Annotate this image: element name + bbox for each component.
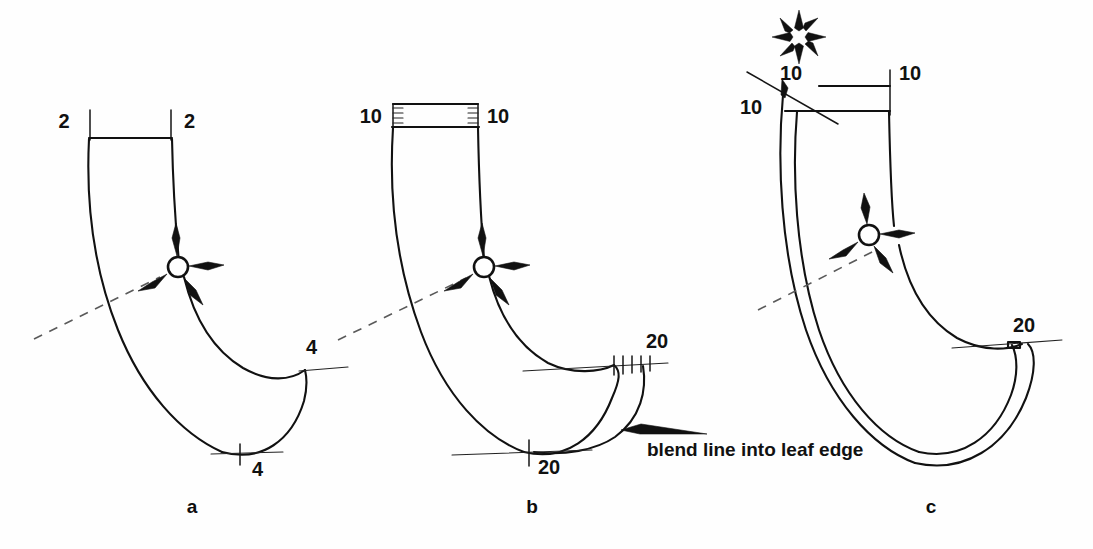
panel-b-section-dash-line bbox=[338, 278, 466, 340]
panel-b-tip-curve-outer bbox=[524, 365, 619, 454]
panel-c-section-dash-line bbox=[758, 250, 876, 310]
panel-c-arrow-down-icon bbox=[874, 246, 893, 273]
panel-b-arrow-right-icon bbox=[495, 262, 530, 270]
panel-a-dim-line-right bbox=[299, 367, 348, 371]
panel-c-trailing-edge-upper bbox=[889, 112, 894, 226]
panel-c-dim-top-left-outer: 10 bbox=[780, 62, 802, 84]
panel-a-dim-trailing-right: 4 bbox=[306, 336, 318, 358]
panel-c-marker-circle-icon bbox=[859, 225, 879, 245]
panel-b-dim-bottom: 20 bbox=[538, 456, 560, 478]
technical-diagram-canvas: 2 2 4 4 a bbox=[0, 0, 1093, 549]
panel-b-blend-curve bbox=[534, 366, 644, 453]
panel-b-trailing-edge-lower bbox=[489, 276, 614, 371]
panel-a-dim-top-left: 2 bbox=[58, 110, 69, 132]
panel-a-trailing-edge-lower bbox=[184, 277, 305, 378]
panel-a-section-dash-line bbox=[34, 277, 160, 339]
starburst-icon bbox=[772, 10, 826, 64]
panel-c-leading-edge-outer bbox=[780, 95, 915, 463]
panel-a-tip-curve bbox=[222, 370, 306, 455]
panel-a-dim-top-right: 2 bbox=[184, 110, 195, 132]
panel-b-leading-edge bbox=[392, 128, 524, 452]
panel-b-flow-marker bbox=[444, 223, 530, 305]
figure-root: 2 2 4 4 a bbox=[0, 0, 1093, 549]
panel-b-arrow-left-icon bbox=[444, 274, 473, 291]
panel-a-flow-marker bbox=[138, 223, 224, 305]
panel-c-dim-top-left-inner: 10 bbox=[740, 96, 762, 118]
panel-a-dim-bottom: 4 bbox=[252, 458, 264, 480]
blend-annotation: blend line into leaf edge bbox=[621, 424, 863, 460]
panel-b-dim-trailing-right: 20 bbox=[646, 330, 668, 352]
panel-a-arrow-left-icon bbox=[138, 274, 167, 291]
panel-c-dim-top-right: 10 bbox=[899, 62, 921, 84]
blend-arrow-icon bbox=[621, 424, 707, 434]
panel-b-arrow-up-icon bbox=[478, 223, 486, 256]
panel-b: 10 10 20 20 blend line into leaf edge b bbox=[338, 104, 863, 517]
panel-letter-c: c bbox=[926, 496, 937, 517]
panel-b-dim-top-left: 10 bbox=[360, 105, 382, 127]
panel-a-arrow-right-icon bbox=[189, 262, 224, 270]
panel-letter-a: a bbox=[187, 496, 198, 517]
panel-c-trailing-edge-lower bbox=[899, 245, 1022, 349]
panel-letter-b: b bbox=[526, 496, 538, 517]
panel-a-arrow-down-icon bbox=[184, 278, 203, 305]
panel-c-dim-trailing-right: 20 bbox=[1013, 314, 1035, 336]
panel-a: 2 2 4 4 a bbox=[34, 110, 348, 517]
panel-b-cap-hatch-left bbox=[393, 108, 403, 123]
panel-b-cap-hatch-right bbox=[468, 108, 478, 123]
panel-b-dim-top-right: 10 bbox=[487, 105, 509, 127]
blend-note-text: blend line into leaf edge bbox=[647, 439, 863, 460]
panel-c-arrow-left-icon bbox=[829, 242, 858, 259]
panel-c-arrow-right-icon bbox=[880, 230, 915, 238]
panel-b-marker-circle-icon bbox=[474, 257, 494, 277]
panel-a-leading-edge bbox=[88, 139, 222, 452]
panel-c-arrow-up-icon bbox=[861, 193, 870, 224]
panel-c-leading-edge-inner bbox=[795, 112, 919, 452]
panel-a-marker-circle-icon bbox=[168, 257, 188, 277]
